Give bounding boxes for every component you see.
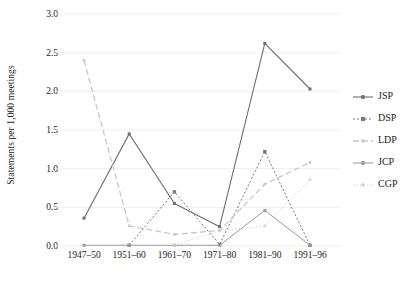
data-point-marker bbox=[128, 244, 131, 247]
data-point-marker bbox=[173, 190, 176, 193]
series-ldp bbox=[83, 59, 312, 236]
legend-item-cgp[interactable]: CGP bbox=[352, 172, 413, 194]
legend-marker-icon bbox=[352, 155, 374, 167]
data-point-marker bbox=[173, 202, 176, 205]
legend-item-jcp[interactable]: JCP bbox=[352, 150, 413, 172]
x-tick-label: 1961–70 bbox=[158, 250, 191, 260]
y-tick-label: 2.5 bbox=[30, 48, 58, 58]
series-cgp bbox=[173, 178, 311, 246]
y-tick-label: 3.0 bbox=[30, 9, 58, 19]
data-point-marker bbox=[309, 88, 312, 91]
legend-marker-icon bbox=[352, 111, 374, 123]
legend-marker-icon bbox=[352, 89, 374, 101]
y-tick-label: 2.0 bbox=[30, 86, 58, 96]
legend-label: LDP bbox=[374, 134, 397, 145]
data-point-marker bbox=[83, 244, 86, 247]
data-point-marker bbox=[218, 225, 221, 228]
series-line bbox=[84, 43, 310, 226]
x-axis-tick-labels: 1947–501951–601961–701971–801981–901991–… bbox=[62, 250, 332, 268]
plot-svg bbox=[62, 14, 332, 246]
legend-label: JCP bbox=[374, 156, 394, 167]
x-tick-label: 1991–96 bbox=[293, 250, 326, 260]
y-tick-label: 1.0 bbox=[30, 164, 58, 174]
legend-label: CGP bbox=[374, 178, 397, 189]
data-point-marker bbox=[173, 233, 176, 236]
series-line bbox=[84, 60, 310, 234]
data-point-marker bbox=[263, 42, 266, 45]
legend-label: JSP bbox=[374, 90, 393, 101]
data-series-group bbox=[83, 42, 312, 247]
y-axis-tick-labels: 0.00.51.01.52.02.53.0 bbox=[26, 14, 58, 246]
data-point-marker bbox=[263, 209, 266, 212]
data-point-marker bbox=[128, 225, 131, 228]
data-point-marker bbox=[218, 229, 221, 232]
data-point-marker bbox=[309, 178, 312, 181]
x-tick-label: 1951–60 bbox=[113, 250, 146, 260]
line-chart-figure: Statements per 1,000 meetings 0.00.51.01… bbox=[0, 0, 413, 282]
data-point-marker bbox=[83, 59, 86, 62]
y-axis-title-text: Statements per 1,000 meetings bbox=[6, 65, 16, 185]
legend-item-jsp[interactable]: JSP bbox=[352, 84, 413, 106]
series-line bbox=[174, 179, 310, 245]
x-tick-label: 1981–90 bbox=[248, 250, 281, 260]
legend-item-ldp[interactable]: LDP bbox=[352, 128, 413, 150]
data-point-marker bbox=[173, 244, 176, 247]
y-axis-title: Statements per 1,000 meetings bbox=[0, 0, 22, 250]
chart-legend: JSPDSPLDPJCPCGP bbox=[352, 84, 413, 194]
data-point-marker bbox=[309, 161, 312, 164]
x-tick-label: 1971–80 bbox=[203, 250, 236, 260]
series-jsp bbox=[83, 42, 312, 228]
plot-area bbox=[62, 14, 332, 246]
data-point-marker bbox=[83, 217, 86, 220]
data-point-marker bbox=[309, 244, 312, 247]
y-tick-label: 1.5 bbox=[30, 125, 58, 135]
legend-marker-icon bbox=[352, 133, 374, 145]
legend-label: DSP bbox=[374, 112, 396, 123]
data-point-marker bbox=[128, 132, 131, 135]
gridlines bbox=[56, 14, 340, 246]
y-tick-label: 0.0 bbox=[30, 241, 58, 251]
data-point-marker bbox=[218, 244, 221, 247]
x-tick-label: 1947–50 bbox=[67, 250, 100, 260]
legend-marker-icon bbox=[352, 177, 374, 189]
series-dsp bbox=[128, 150, 312, 247]
legend-item-dsp[interactable]: DSP bbox=[352, 106, 413, 128]
data-point-marker bbox=[264, 183, 267, 186]
y-tick-label: 0.5 bbox=[30, 202, 58, 212]
data-point-marker bbox=[264, 225, 267, 228]
data-point-marker bbox=[263, 150, 266, 153]
